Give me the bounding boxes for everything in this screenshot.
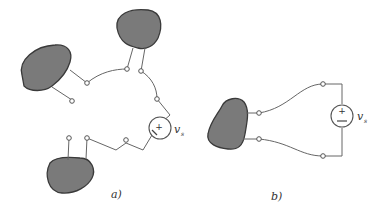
source-b-symbol: v (357, 110, 364, 123)
network-blob-2 (117, 10, 161, 49)
terminal-node (139, 69, 144, 74)
terminal-node (85, 81, 90, 86)
source-a-subscript: s (181, 130, 184, 137)
source-b-subscript: s (364, 117, 367, 124)
panel-a-diagram: + v s a) (21, 10, 184, 201)
source-a-symbol: v (174, 123, 181, 136)
network-blob-1 (21, 45, 70, 91)
panel-b-diagram: + v s b) (208, 82, 367, 203)
terminal-node (70, 99, 75, 104)
panel-a-label: a) (111, 188, 122, 201)
circuit-figure: + v s a) + v s b) (0, 0, 385, 214)
terminal-node (124, 138, 129, 143)
panel-b-label: b) (271, 190, 282, 203)
source-a-plus: + (155, 122, 163, 132)
network-blob-3 (47, 157, 93, 193)
terminal-node (321, 154, 326, 159)
terminal-node (257, 111, 262, 116)
terminal-node (257, 137, 262, 142)
terminal-node (155, 97, 160, 102)
terminal-node (125, 67, 130, 72)
terminal-node (67, 136, 72, 141)
terminal-node (321, 82, 326, 87)
terminal-node (85, 136, 90, 141)
network-blob-b (208, 99, 248, 150)
source-b-plus: + (338, 106, 346, 116)
